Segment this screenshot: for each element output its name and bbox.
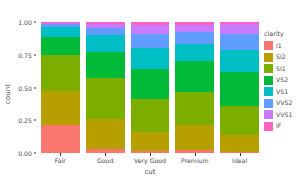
bar-group[interactable]: [131, 22, 170, 153]
x-tick-mark: [105, 153, 106, 156]
bar-segment[interactable]: [175, 44, 214, 61]
bar-group[interactable]: [175, 22, 214, 153]
x-axis-title: cut: [38, 168, 262, 176]
legend-item-label: IF: [276, 123, 281, 129]
y-tick-mark: [34, 54, 37, 55]
legend-item-label: SI2: [276, 54, 286, 60]
bar-segment[interactable]: [220, 72, 259, 106]
bar-segment[interactable]: [220, 24, 259, 34]
legend-item-label: I1: [276, 43, 282, 49]
plot-panel: [38, 22, 262, 153]
bar-segment[interactable]: [131, 48, 170, 69]
y-tick-label: 0.25: [18, 117, 32, 124]
y-tick-label: 0.00: [18, 150, 32, 157]
bar-segment[interactable]: [131, 132, 170, 152]
bar-segment[interactable]: [175, 25, 214, 32]
bar-segment[interactable]: [220, 135, 259, 152]
legend-item-label: SI1: [276, 66, 286, 72]
y-axis-ticks: 0.000.250.500.751.00: [12, 22, 36, 153]
bar-segment[interactable]: [41, 91, 80, 125]
bar-group[interactable]: [41, 22, 80, 153]
bar-segment[interactable]: [131, 25, 170, 34]
bar-segment[interactable]: [220, 34, 259, 50]
legend-item[interactable]: SI1: [264, 63, 305, 75]
y-tick-mark: [34, 153, 37, 154]
legend-swatch-icon: [264, 53, 273, 62]
legend-item-label: VVS1: [276, 112, 292, 118]
legend-item-label: VVS2: [276, 100, 292, 106]
y-tick-mark: [34, 22, 37, 23]
y-tick-label: 1.00: [18, 19, 32, 26]
bar-segment[interactable]: [41, 125, 80, 153]
bar-segment[interactable]: [86, 35, 125, 52]
bar-segment[interactable]: [175, 92, 214, 125]
bar-segment[interactable]: [131, 99, 170, 132]
y-tick-mark: [34, 120, 37, 121]
legend-swatch-icon: [264, 122, 273, 131]
y-tick-label: 0.50: [18, 84, 32, 91]
bar-segment[interactable]: [175, 32, 214, 44]
bar-segment[interactable]: [41, 37, 80, 55]
legend-item[interactable]: VS1: [264, 86, 305, 98]
legend-swatch-icon: [264, 41, 273, 50]
y-axis-title-label: count: [4, 83, 12, 103]
legend-item-label: VS2: [276, 77, 288, 83]
legend-item[interactable]: IF: [264, 121, 305, 133]
legend-item[interactable]: VVS1: [264, 109, 305, 121]
legend-item[interactable]: I1: [264, 40, 305, 52]
bar-segment[interactable]: [131, 34, 170, 48]
bar-segment[interactable]: [41, 27, 80, 36]
x-tick-label: Ideal: [232, 157, 247, 164]
bar-segment[interactable]: [175, 125, 214, 150]
bar-segment[interactable]: [220, 106, 259, 135]
x-tick-label: Premium: [181, 157, 209, 164]
legend-swatch-icon: [264, 87, 273, 96]
y-tick-mark: [34, 87, 37, 88]
bar-group[interactable]: [220, 22, 259, 153]
bar-segment[interactable]: [220, 50, 259, 72]
bar-segment[interactable]: [86, 28, 125, 35]
legend-swatch-icon: [264, 76, 273, 85]
legend-swatch-icon: [264, 64, 273, 73]
x-tick-label: Fair: [55, 157, 66, 164]
x-tick-mark: [150, 153, 151, 156]
x-tick-label: Very Good: [134, 157, 166, 164]
bar-segment[interactable]: [41, 55, 80, 91]
bar-group[interactable]: [86, 22, 125, 153]
legend-swatch-icon: [264, 110, 273, 119]
bar-segment[interactable]: [86, 119, 125, 149]
legend-swatch-icon: [264, 99, 273, 108]
legend: clarity I1SI2SI1VS2VS1VVS2VVS1IF: [264, 30, 305, 132]
legend-item[interactable]: SI2: [264, 52, 305, 64]
legend-items: I1SI2SI1VS2VS1VVS2VVS1IF: [264, 40, 305, 132]
stacked-bar-chart: count 0.000.250.500.751.00 FairGoodVery …: [0, 0, 305, 187]
x-tick-label: Good: [97, 157, 113, 164]
x-tick-mark: [195, 153, 196, 156]
bar-segment[interactable]: [86, 52, 125, 78]
legend-item[interactable]: VVS2: [264, 98, 305, 110]
x-tick-mark: [60, 153, 61, 156]
legend-item[interactable]: VS2: [264, 75, 305, 87]
bar-segment[interactable]: [86, 78, 125, 119]
bar-segment[interactable]: [131, 69, 170, 99]
x-tick-mark: [240, 153, 241, 156]
legend-item-label: VS1: [276, 89, 288, 95]
bar-segment[interactable]: [175, 61, 214, 92]
legend-title: clarity: [264, 30, 305, 38]
x-axis-ticks: FairGoodVery GoodPremiumIdeal: [38, 153, 262, 169]
y-tick-label: 0.75: [18, 51, 32, 58]
